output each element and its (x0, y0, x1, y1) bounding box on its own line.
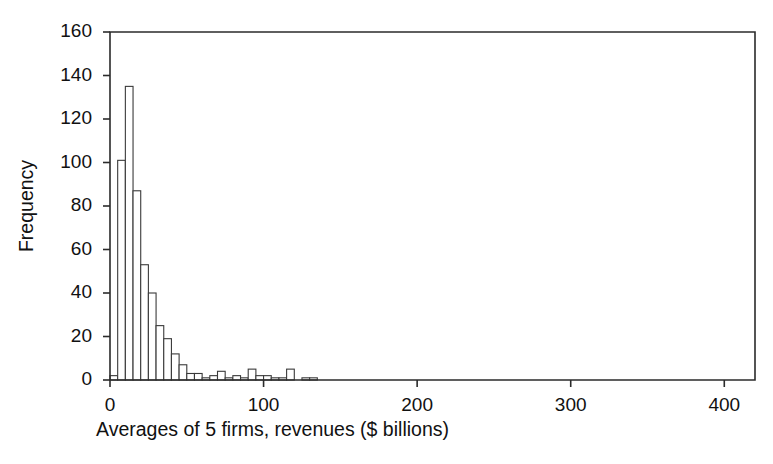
ticks-group (103, 32, 724, 387)
histogram-bar (148, 293, 156, 380)
y-axis-title: Frequency (15, 160, 37, 252)
x-tick-label: 300 (555, 394, 587, 415)
histogram-bar (118, 160, 126, 380)
x-tick-label: 400 (708, 394, 740, 415)
bars-group (110, 86, 317, 380)
histogram-bar (218, 371, 226, 380)
histogram-bar (171, 354, 179, 380)
y-tick-label: 100 (60, 151, 92, 172)
y-tick-label: 40 (71, 281, 92, 302)
histogram-bar (287, 369, 295, 380)
x-tick-label: 200 (401, 394, 433, 415)
histogram-bar (156, 326, 164, 380)
y-tick-label: 160 (60, 20, 92, 41)
x-tick-label: 100 (248, 394, 280, 415)
histogram-bar (125, 86, 133, 380)
y-tick-label: 20 (71, 325, 92, 346)
axes-group (110, 32, 755, 380)
y-tick-label: 0 (81, 368, 92, 389)
histogram-bar (187, 373, 195, 380)
y-tick-label: 60 (71, 238, 92, 259)
x-tick-label: 0 (105, 394, 116, 415)
y-tick-label: 80 (71, 194, 92, 215)
histogram-chart: 0204060801001201401600100200300400 Avera… (0, 0, 773, 464)
histogram-bar (248, 369, 256, 380)
histogram-bar (133, 191, 141, 380)
plot-frame (110, 32, 755, 380)
histogram-bar (164, 339, 172, 380)
histogram-bar (179, 365, 187, 380)
x-axis-title: Averages of 5 firms, revenues ($ billion… (96, 418, 449, 440)
histogram-bar (194, 373, 202, 380)
y-tick-label: 120 (60, 107, 92, 128)
histogram-bar (141, 265, 149, 380)
chart-canvas: 0204060801001201401600100200300400 Avera… (0, 0, 773, 464)
y-tick-label: 140 (60, 64, 92, 85)
